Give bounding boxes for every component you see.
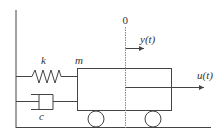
damper (16, 95, 77, 110)
displacement-label: y(t) (139, 33, 156, 46)
wheel-left (88, 111, 104, 127)
input-label: u(t) (197, 69, 213, 82)
spring-label: k (41, 54, 47, 66)
origin-label: 0 (123, 14, 129, 26)
mass-spring-damper-diagram: 0 y(t) u(t) k m c (0, 0, 224, 137)
damper-label: c (39, 110, 44, 122)
spring (16, 70, 77, 83)
mass-label: m (75, 54, 83, 66)
wheel-right (145, 111, 161, 127)
mass-block (78, 69, 172, 111)
